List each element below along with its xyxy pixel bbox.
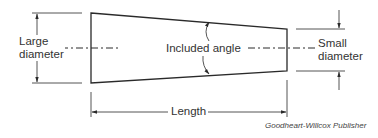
large-diameter-label-line1: Large	[19, 35, 64, 48]
small-diameter-label-line1: Small	[318, 37, 363, 50]
large-diameter-label-line2: diameter	[19, 48, 64, 61]
large-diameter-label: Large diameter	[18, 35, 65, 61]
length-label: Length	[170, 105, 207, 118]
publisher-credit: Goodheart-Willcox Publisher	[265, 121, 366, 130]
included-angle-label: Included angle	[165, 42, 242, 55]
taper-diagram: Large diameter Included angle Small diam…	[0, 0, 378, 138]
small-diameter-label: Small diameter	[318, 37, 363, 63]
included-angle-arc-bottom	[203, 56, 209, 74]
included-angle-arc-top	[206, 22, 209, 41]
small-diameter-label-line2: diameter	[318, 50, 363, 63]
